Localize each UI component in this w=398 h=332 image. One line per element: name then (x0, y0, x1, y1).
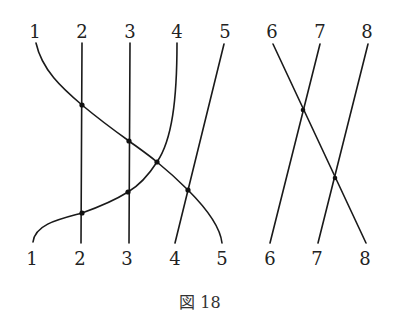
bottom-label-4: 4 (169, 248, 180, 269)
bottom-label-7: 7 (311, 248, 322, 269)
top-label-5: 5 (219, 21, 230, 42)
crossing-nodes (79, 102, 337, 215)
top-labels: 1 2 3 4 5 6 7 8 (29, 21, 372, 42)
crossing-node (333, 176, 338, 181)
strand-7-to-6 (270, 44, 320, 243)
crossing-node (185, 187, 190, 192)
top-label-4: 4 (171, 21, 182, 42)
strands-right-group (270, 44, 368, 243)
bottom-label-8: 8 (359, 248, 370, 269)
crossing-node (154, 159, 159, 164)
bottom-labels: 1 2 3 4 5 6 7 8 (26, 248, 370, 269)
strand-5-to-4 (175, 44, 224, 243)
crossing-node (301, 108, 306, 113)
bottom-label-2: 2 (74, 248, 85, 269)
bottom-label-5: 5 (216, 248, 227, 269)
strand-4-to-1 (33, 43, 177, 242)
crossing-node (126, 138, 131, 143)
bottom-label-3: 3 (121, 248, 132, 269)
top-label-2: 2 (76, 21, 87, 42)
top-label-3: 3 (124, 21, 135, 42)
top-label-8: 8 (361, 21, 372, 42)
strand-diagram: 1 2 3 4 5 6 7 8 1 2 (0, 0, 398, 332)
crossing-node (125, 189, 130, 194)
strand-6-to-8 (273, 44, 366, 243)
top-label-1: 1 (29, 21, 40, 42)
figure-caption: 図 18 (179, 293, 220, 312)
crossing-node (79, 210, 84, 215)
top-label-6: 6 (266, 21, 277, 42)
bottom-label-1: 1 (26, 248, 37, 269)
top-label-7: 7 (314, 21, 325, 42)
crossing-node (79, 102, 84, 107)
bottom-label-6: 6 (264, 248, 275, 269)
strand-8-to-7 (318, 44, 368, 243)
